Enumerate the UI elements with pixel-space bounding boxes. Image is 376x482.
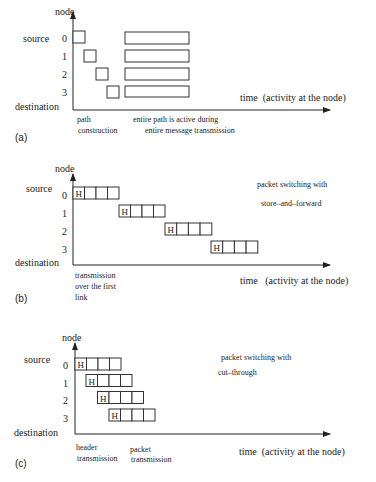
node-label: 0 <box>62 33 67 44</box>
destination-label: destination <box>15 257 59 268</box>
annotation: transmission <box>77 454 117 463</box>
message-box <box>125 68 189 80</box>
node-label: 3 <box>63 413 68 424</box>
node-label: 3 <box>62 87 67 98</box>
packet-node-1: H <box>119 205 165 217</box>
annotation: transmission <box>131 455 171 464</box>
y-axis-label: node <box>62 332 82 343</box>
header-cell: H <box>112 411 119 421</box>
x-axis-label: time (activity at the node) <box>239 446 345 458</box>
message-box <box>125 32 189 44</box>
x-axis-label: time (activity at the node) <box>240 275 348 287</box>
annotation: packet <box>130 445 152 454</box>
packet-node-3: H <box>211 241 258 253</box>
node-label: 2 <box>62 69 67 80</box>
packet-node-2: H <box>98 392 144 404</box>
message-box <box>125 50 189 62</box>
annotation: construction <box>78 126 118 135</box>
path-setup-box <box>73 31 85 43</box>
header-cell: H <box>76 189 83 199</box>
source-label: source <box>26 183 53 194</box>
panel-title: packet switching with <box>257 180 327 189</box>
y-axis-label: node <box>55 6 75 17</box>
annotation: transmission <box>75 271 115 280</box>
source-label: source <box>23 33 50 44</box>
x-axis-label: time (activity at the node) <box>240 92 346 104</box>
panel-a: node source 0 1 2 3 destination time (ac… <box>15 6 346 143</box>
y-axis-label: node <box>55 163 75 174</box>
node-label: 1 <box>62 51 67 62</box>
header-cell: H <box>89 377 96 387</box>
annotation: path <box>77 115 91 124</box>
header-cell: H <box>78 360 85 370</box>
panel-label: (c) <box>15 458 27 469</box>
packet-node-0: H <box>73 187 119 199</box>
panel-b: node source 0 1 2 3 destination H H H H … <box>15 163 348 304</box>
packet-node-3: H <box>109 409 155 421</box>
node-label: 3 <box>62 244 67 255</box>
header-cell: H <box>214 243 221 253</box>
header-cell: H <box>168 225 175 235</box>
path-setup-box <box>84 50 96 62</box>
node-label: 2 <box>62 226 67 237</box>
switching-diagram: node source 0 1 2 3 destination time (ac… <box>0 0 376 482</box>
packet-node-1: H <box>86 375 132 387</box>
path-setup-box <box>107 86 119 98</box>
annotation: entire message transmission <box>145 126 235 135</box>
packet-node-2: H <box>165 223 212 235</box>
destination-label: destination <box>14 427 58 438</box>
packet-node-0: H <box>75 358 121 370</box>
node-label: 1 <box>62 208 67 219</box>
panel-label: (a) <box>15 132 27 143</box>
annotation: header <box>76 443 98 452</box>
annotation: over the first <box>75 282 117 291</box>
node-label: 0 <box>63 360 68 371</box>
panel-title: packet switching with <box>221 353 291 362</box>
destination-label: destination <box>15 101 59 112</box>
node-label: 0 <box>62 190 67 201</box>
source-label: source <box>24 354 51 365</box>
path-setup-box <box>96 68 108 80</box>
panel-c: node source 0 1 2 3 destination H H H H … <box>14 332 345 469</box>
node-label: 1 <box>63 378 68 389</box>
panel-title: cut–through <box>218 368 257 377</box>
node-label: 2 <box>63 395 68 406</box>
panel-label: (b) <box>15 293 27 304</box>
message-box <box>125 86 189 97</box>
panel-title: store–and–forward <box>261 199 321 208</box>
header-cell: H <box>100 394 107 404</box>
annotation: link <box>75 293 87 302</box>
header-cell: H <box>122 207 129 217</box>
annotation: entire path is active during <box>133 115 218 124</box>
